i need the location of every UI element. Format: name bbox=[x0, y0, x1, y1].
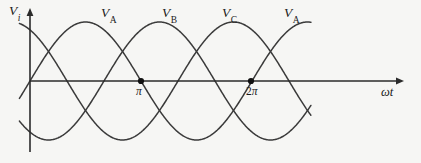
series-label-va-first-main: V bbox=[101, 5, 109, 20]
series-label-va-first-subscript: A bbox=[110, 15, 117, 25]
series-label-vb-subscript: B bbox=[171, 15, 177, 25]
tick-label-two-pi: 2π bbox=[246, 86, 258, 98]
y-axis-label-main: V bbox=[9, 3, 17, 18]
y-axis-label-subscript: i bbox=[18, 13, 21, 23]
tick-dot bbox=[248, 78, 254, 84]
series-label-va-second-main: V bbox=[284, 5, 292, 20]
series-label-vc-main: V bbox=[222, 5, 230, 20]
series-label-va-second: VA bbox=[284, 6, 299, 23]
series-label-va-second-subscript: A bbox=[293, 15, 300, 25]
series-label-vc: VC bbox=[222, 6, 237, 23]
series-label-vb: VB bbox=[162, 6, 177, 23]
series-label-vb-main: V bbox=[162, 5, 170, 20]
tick-dot bbox=[138, 78, 144, 84]
tick-label-pi: π bbox=[136, 86, 142, 98]
tick-label-two-pi-symbol: π bbox=[252, 85, 258, 97]
series-label-vc-subscript: C bbox=[231, 15, 237, 25]
waveform-plot bbox=[0, 0, 421, 163]
waveform-figure: Vi ωt π 2π VA VB VC VA bbox=[0, 0, 421, 163]
y-axis-arrow-icon bbox=[27, 8, 34, 16]
series-label-va-first: VA bbox=[101, 6, 116, 23]
x-axis-label: ωt bbox=[381, 86, 393, 99]
x-axis-arrow-icon bbox=[396, 78, 404, 85]
y-axis-label: Vi bbox=[9, 4, 20, 21]
